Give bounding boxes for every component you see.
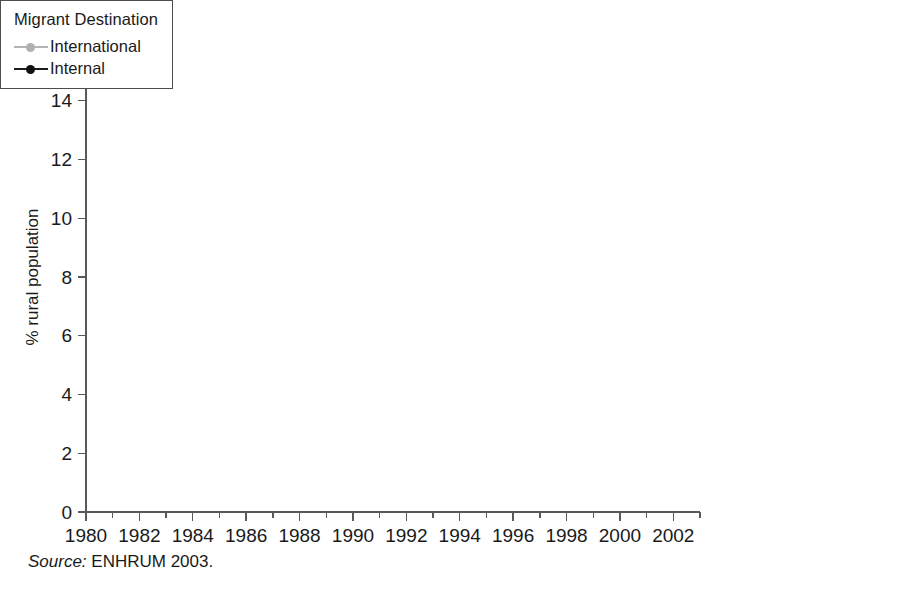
figure-container: 0246810121416198019821984198619881990199… [0, 0, 909, 597]
axes-group [78, 42, 700, 521]
source-note: Source: ENHRUM 2003. [28, 552, 213, 572]
x-axis-tick-label: 1994 [439, 525, 482, 546]
legend-label-international: International [50, 37, 141, 56]
chart-legend: Migrant Destination International Intern… [0, 0, 173, 89]
source-label: Source: [28, 552, 87, 571]
y-axis-tick-label: 14 [51, 90, 73, 111]
legend-item-internal[interactable]: Internal [14, 59, 158, 78]
source-text: ENHRUM 2003. [87, 552, 214, 571]
legend-label-internal: Internal [50, 59, 105, 78]
legend-title: Migrant Destination [14, 10, 158, 29]
x-axis-tick-label: 1980 [65, 525, 107, 546]
x-axis-tick-label: 2002 [652, 525, 694, 546]
x-axis-tick-label: 1996 [492, 525, 534, 546]
legend-item-international[interactable]: International [14, 37, 158, 56]
x-axis-tick-label: 1988 [278, 525, 320, 546]
x-axis-tick-label: 1992 [385, 525, 427, 546]
legend-marker-international [14, 40, 48, 54]
legend-marker-internal [14, 62, 48, 76]
y-axis-tick-label: 8 [61, 267, 72, 288]
y-axis-tick-label: 12 [51, 149, 72, 170]
y-axis-tick-label: 10 [51, 208, 72, 229]
y-axis-tick-label: 0 [61, 502, 72, 523]
x-axis-tick-label: 1982 [118, 525, 160, 546]
y-axis-tick-label: 6 [61, 325, 72, 346]
y-axis-title: % rural population [23, 208, 42, 345]
x-axis-tick-label: 2000 [599, 525, 641, 546]
y-axis-tick-label: 2 [61, 443, 72, 464]
x-axis-tick-label: 1998 [545, 525, 587, 546]
x-axis-tick-label: 1984 [172, 525, 215, 546]
axis-labels-group: 0246810121416198019821984198619881990199… [23, 32, 694, 547]
line-chart: 0246810121416198019821984198619881990199… [0, 0, 909, 597]
y-axis-tick-label: 4 [61, 384, 72, 405]
x-axis-tick-label: 1986 [225, 525, 267, 546]
x-axis-tick-label: 1990 [332, 525, 374, 546]
